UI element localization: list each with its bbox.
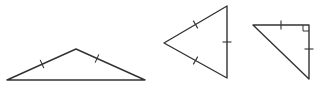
isosceles-obtuse-triangle <box>7 49 145 80</box>
equilateral-triangle <box>164 6 232 78</box>
triangle-outline <box>7 49 145 80</box>
isosceles-right-triangle <box>253 21 314 80</box>
right-angle-marker <box>303 25 309 31</box>
triangle-outline <box>164 6 227 78</box>
congruence-tick-mark <box>193 57 198 65</box>
congruence-tick-mark <box>193 21 198 29</box>
triangle-diagram <box>0 0 315 96</box>
triangle-outline <box>253 25 309 79</box>
